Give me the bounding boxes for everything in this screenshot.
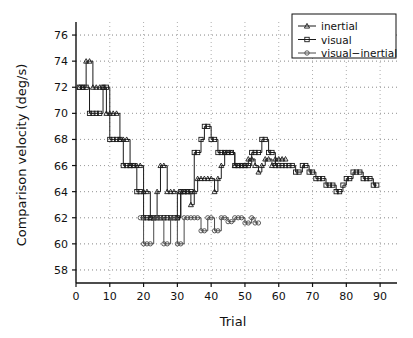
y-tick-label: 72 bbox=[54, 81, 68, 94]
x-axis-title: Trial bbox=[219, 314, 247, 329]
x-tick-label: 10 bbox=[103, 290, 117, 303]
x-tick-label: 30 bbox=[170, 290, 184, 303]
y-axis-title: Comparison velocity (deg/s) bbox=[14, 64, 29, 247]
legend-label: visual bbox=[321, 34, 352, 46]
x-tick-label: 40 bbox=[204, 290, 218, 303]
chart-figure: 58606264666870727476 0102030405060708090… bbox=[0, 0, 413, 338]
x-tick-label: 80 bbox=[339, 290, 353, 303]
y-tick-label: 62 bbox=[54, 212, 68, 225]
y-tick-label: 64 bbox=[54, 186, 68, 199]
y-tick-label: 76 bbox=[54, 29, 68, 42]
comparison-velocity-line-chart: 58606264666870727476 0102030405060708090… bbox=[0, 0, 413, 338]
x-tick-label: 60 bbox=[272, 290, 286, 303]
y-tick-label: 58 bbox=[54, 264, 68, 277]
x-tick-label: 50 bbox=[238, 290, 252, 303]
x-tick-label: 0 bbox=[73, 290, 80, 303]
legend-label: visual−inertial bbox=[321, 47, 397, 59]
x-tick-label: 90 bbox=[373, 290, 387, 303]
y-tick-label: 66 bbox=[54, 160, 68, 173]
y-tick-label: 74 bbox=[54, 55, 68, 68]
y-tick-label: 70 bbox=[54, 107, 68, 120]
y-tick-label: 68 bbox=[54, 133, 68, 146]
x-tick-label: 70 bbox=[306, 290, 320, 303]
legend-label: inertial bbox=[321, 20, 358, 32]
y-tick-label: 60 bbox=[54, 238, 68, 251]
chart-legend: inertialvisualvisual−inertial bbox=[292, 14, 397, 59]
x-tick-label: 20 bbox=[137, 290, 151, 303]
